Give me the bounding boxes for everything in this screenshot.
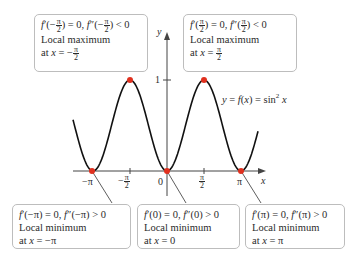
extremum-location: at x = −π2 bbox=[41, 46, 141, 61]
derivative-conditions: f′(−π2) = 0, f″(−π2) < 0 bbox=[41, 18, 141, 33]
extremum-type: Local minimum bbox=[19, 221, 124, 234]
annotation-local-min-zero: f′(0) = 0, f″(0) > 0 Local minimum at x … bbox=[137, 204, 240, 249]
annotation-local-min-pi: f′(π) = 0, f″(π) > 0 Local minimum at x … bbox=[245, 204, 345, 249]
extremum-location: at x = π bbox=[252, 234, 338, 247]
annotation-local-max-half-pi: f′(π2) = 0, f″(π2) < 0 Local maximum at … bbox=[183, 14, 297, 72]
x-tick-label-half-pi: π2 bbox=[199, 174, 205, 189]
local-min-point bbox=[89, 168, 95, 174]
y-axis-arrow-icon bbox=[164, 32, 170, 40]
derivative-conditions: f′(−π) = 0, f″(−π) > 0 bbox=[19, 208, 124, 221]
x-tick-label-neg-half-pi: −π2 bbox=[118, 174, 130, 189]
extremum-location: at x = −π bbox=[19, 234, 124, 247]
local-min-point bbox=[164, 168, 170, 174]
y-axis-label: y bbox=[157, 26, 161, 37]
x-axis-arrow-icon bbox=[258, 168, 266, 174]
figure: y x 1 −π −π2 0 π2 π y = f(x) = sin2 x f′… bbox=[0, 0, 361, 260]
extremum-location: at x = 0 bbox=[144, 234, 233, 247]
extremum-type: Local minimum bbox=[252, 221, 338, 234]
derivative-conditions: f′(0) = 0, f″(0) > 0 bbox=[144, 208, 233, 221]
x-tick-label-neg-pi: −π bbox=[82, 176, 93, 187]
y-tick-label-1: 1 bbox=[155, 74, 160, 85]
derivative-conditions: f′(π2) = 0, f″(π2) < 0 bbox=[190, 18, 290, 33]
local-max-point bbox=[201, 77, 207, 83]
leader-line bbox=[167, 171, 186, 203]
leader-line bbox=[241, 171, 261, 203]
local-max-point bbox=[127, 77, 133, 83]
annotation-local-min-neg-pi: f′(−π) = 0, f″(−π) > 0 Local minimum at … bbox=[12, 204, 131, 249]
x-axis-label: x bbox=[261, 175, 265, 186]
x-tick-label-zero: 0 bbox=[158, 176, 163, 187]
derivative-conditions: f′(π) = 0, f″(π) > 0 bbox=[252, 208, 338, 221]
x-tick-label-pi: π bbox=[237, 176, 242, 187]
extremum-location: at x = π2 bbox=[190, 46, 290, 61]
leader-line bbox=[92, 171, 112, 203]
curve-label: y = f(x) = sin2 x bbox=[222, 92, 287, 105]
extremum-type: Local minimum bbox=[144, 221, 233, 234]
annotation-local-max-neg-half-pi: f′(−π2) = 0, f″(−π2) < 0 Local maximum a… bbox=[34, 14, 148, 72]
extremum-type: Local maximum bbox=[41, 33, 141, 46]
local-min-point bbox=[238, 168, 244, 174]
extremum-type: Local maximum bbox=[190, 33, 290, 46]
